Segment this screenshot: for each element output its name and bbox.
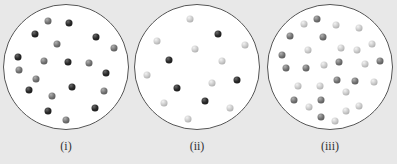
dark-particle-icon xyxy=(65,59,72,66)
light-particle-icon xyxy=(343,89,350,96)
medium-particle-icon xyxy=(283,65,290,72)
medium-particle-icon xyxy=(377,58,384,65)
medium-particle-icon xyxy=(314,16,321,23)
light-particle-icon xyxy=(185,116,192,123)
light-particle-icon xyxy=(317,83,324,90)
light-particle-icon xyxy=(295,83,302,90)
light-particle-icon xyxy=(356,103,363,110)
medium-particle-icon xyxy=(318,114,325,121)
light-particle-icon xyxy=(356,25,363,32)
medium-particle-icon xyxy=(320,34,327,41)
dark-particle-icon xyxy=(202,98,209,105)
container-circle-ii xyxy=(134,4,260,130)
dark-particle-icon xyxy=(66,20,73,27)
light-particle-icon xyxy=(301,21,308,28)
dark-particle-icon xyxy=(15,54,22,61)
light-particle-icon xyxy=(306,104,313,111)
light-particle-icon xyxy=(362,61,369,68)
dark-particle-icon xyxy=(215,31,222,38)
medium-particle-icon xyxy=(33,76,40,83)
dark-particle-icon xyxy=(93,34,100,41)
light-particle-icon xyxy=(333,22,340,29)
dark-particle-icon xyxy=(166,57,173,64)
dark-particle-icon xyxy=(69,84,76,91)
medium-particle-icon xyxy=(334,77,341,84)
light-particle-icon xyxy=(242,42,249,49)
dark-particle-icon xyxy=(32,31,39,38)
light-particle-icon xyxy=(219,58,226,65)
light-particle-icon xyxy=(371,79,378,86)
medium-particle-icon xyxy=(54,41,61,48)
panel-label-i: (i) xyxy=(36,139,96,154)
medium-particle-icon xyxy=(111,45,118,52)
dark-particle-icon xyxy=(92,105,99,112)
dark-particle-icon xyxy=(45,108,52,115)
light-particle-icon xyxy=(192,46,199,53)
medium-particle-icon xyxy=(287,33,294,40)
medium-particle-icon xyxy=(291,97,298,104)
medium-particle-icon xyxy=(352,78,359,85)
light-particle-icon xyxy=(209,80,216,87)
medium-particle-icon xyxy=(318,97,325,104)
panel-label-ii: (ii) xyxy=(167,139,227,154)
dark-particle-icon xyxy=(174,85,181,92)
light-particle-icon xyxy=(332,118,339,125)
light-particle-icon xyxy=(154,38,161,45)
light-particle-icon xyxy=(354,47,361,54)
medium-particle-icon xyxy=(49,93,56,100)
medium-particle-icon xyxy=(336,59,343,66)
medium-particle-icon xyxy=(101,88,108,95)
medium-particle-icon xyxy=(303,65,310,72)
medium-particle-icon xyxy=(41,58,48,65)
light-particle-icon xyxy=(321,62,328,69)
light-particle-icon xyxy=(161,100,168,107)
light-particle-icon xyxy=(343,108,350,115)
medium-particle-icon xyxy=(63,117,70,124)
dark-particle-icon xyxy=(26,87,33,94)
medium-particle-icon xyxy=(86,60,93,67)
medium-particle-icon xyxy=(16,67,23,74)
panel-label-iii: (iii) xyxy=(300,139,360,154)
light-particle-icon xyxy=(305,47,312,54)
medium-particle-icon xyxy=(45,18,52,25)
light-particle-icon xyxy=(227,105,234,112)
light-particle-icon xyxy=(369,41,376,48)
light-particle-icon xyxy=(338,45,345,52)
light-particle-icon xyxy=(144,72,151,79)
light-particle-icon xyxy=(187,16,194,23)
medium-particle-icon xyxy=(279,52,286,59)
dark-particle-icon xyxy=(103,70,110,77)
dark-particle-icon xyxy=(234,77,241,84)
